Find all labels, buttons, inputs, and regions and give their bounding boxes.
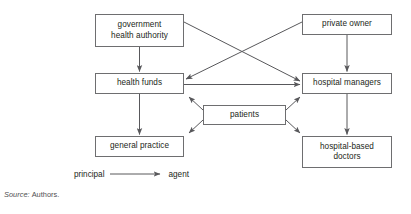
legend: principal agent — [74, 166, 214, 182]
node-general-practice-label: general practice — [108, 141, 171, 151]
edge-patients-to-hospital-managers — [286, 97, 300, 110]
node-patients[interactable]: patients — [203, 105, 286, 125]
edge-private-owner-to-health-funds — [186, 22, 302, 79]
node-health-funds[interactable]: health funds — [95, 73, 184, 94]
source-note: Source:Authors. — [4, 190, 59, 199]
node-government-health-authority[interactable]: government health authority — [95, 14, 184, 47]
edge-patients-to-health-funds — [189, 97, 203, 110]
node-government-health-authority-label: government health authority — [109, 20, 170, 41]
node-health-funds-label: health funds — [115, 78, 164, 88]
node-private-owner-label: private owner — [320, 19, 374, 29]
node-hospital-based-doctors[interactable]: hospital-based doctors — [302, 136, 392, 168]
figure-container: government health authority private owne… — [0, 0, 411, 214]
node-general-practice[interactable]: general practice — [95, 136, 184, 157]
node-hospital-managers-label: hospital managers — [311, 78, 383, 88]
legend-agent-label: agent — [169, 170, 190, 179]
edge-patients-to-general-practice — [189, 120, 203, 133]
source-note-label: Source: — [4, 190, 30, 199]
source-note-value: Authors. — [32, 190, 60, 199]
node-private-owner[interactable]: private owner — [302, 14, 392, 35]
legend-principal-label: principal — [74, 170, 105, 179]
node-hospital-managers[interactable]: hospital managers — [302, 73, 392, 94]
right-arrow-icon — [110, 169, 164, 179]
node-patients-label: patients — [228, 110, 261, 120]
edge-patients-to-hospital-doctors — [286, 120, 300, 133]
node-hospital-based-doctors-label: hospital-based doctors — [318, 142, 376, 163]
